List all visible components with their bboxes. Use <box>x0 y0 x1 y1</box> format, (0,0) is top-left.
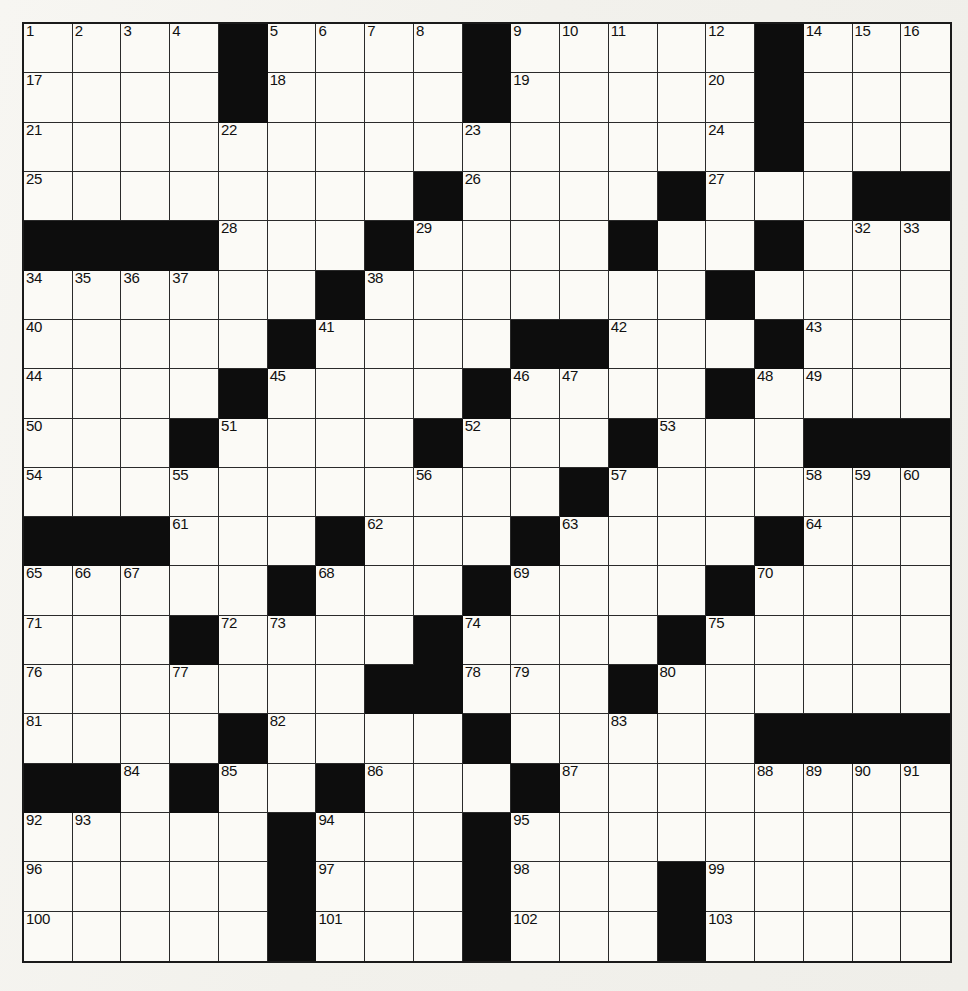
crossword-cell[interactable] <box>73 369 122 418</box>
crossword-cell[interactable]: 58 <box>804 468 853 517</box>
crossword-cell[interactable] <box>658 123 707 172</box>
crossword-cell[interactable] <box>511 419 560 468</box>
crossword-cell[interactable] <box>609 271 658 320</box>
crossword-cell[interactable] <box>365 813 414 862</box>
crossword-cell[interactable]: 46 <box>511 369 560 418</box>
crossword-cell[interactable] <box>365 123 414 172</box>
crossword-cell[interactable]: 54 <box>24 468 73 517</box>
crossword-cell[interactable]: 19 <box>511 73 560 122</box>
crossword-cell[interactable] <box>706 468 755 517</box>
crossword-cell[interactable]: 52 <box>463 419 512 468</box>
crossword-cell[interactable] <box>901 369 950 418</box>
crossword-cell[interactable]: 38 <box>365 271 414 320</box>
crossword-cell[interactable] <box>658 764 707 813</box>
crossword-cell[interactable] <box>414 566 463 615</box>
crossword-cell[interactable] <box>414 123 463 172</box>
crossword-cell[interactable] <box>414 517 463 566</box>
crossword-cell[interactable] <box>219 813 268 862</box>
crossword-cell[interactable] <box>73 320 122 369</box>
crossword-cell[interactable]: 90 <box>853 764 902 813</box>
crossword-cell[interactable] <box>755 419 804 468</box>
crossword-cell[interactable] <box>365 73 414 122</box>
crossword-cell[interactable]: 40 <box>24 320 73 369</box>
crossword-cell[interactable] <box>853 665 902 714</box>
crossword-cell[interactable] <box>804 221 853 270</box>
crossword-cell[interactable] <box>706 419 755 468</box>
crossword-cell[interactable] <box>170 320 219 369</box>
crossword-cell[interactable]: 93 <box>73 813 122 862</box>
crossword-cell[interactable] <box>804 616 853 665</box>
crossword-cell[interactable]: 82 <box>268 714 317 763</box>
crossword-cell[interactable] <box>219 566 268 615</box>
crossword-cell[interactable] <box>560 123 609 172</box>
crossword-cell[interactable] <box>365 862 414 911</box>
crossword-cell[interactable] <box>804 172 853 221</box>
crossword-cell[interactable] <box>755 912 804 961</box>
crossword-cell[interactable]: 34 <box>24 271 73 320</box>
crossword-cell[interactable] <box>804 271 853 320</box>
crossword-cell[interactable]: 63 <box>560 517 609 566</box>
crossword-cell[interactable] <box>219 172 268 221</box>
crossword-cell[interactable]: 44 <box>24 369 73 418</box>
crossword-cell[interactable]: 83 <box>609 714 658 763</box>
crossword-cell[interactable]: 102 <box>511 912 560 961</box>
crossword-cell[interactable] <box>658 714 707 763</box>
crossword-cell[interactable] <box>853 320 902 369</box>
crossword-cell[interactable] <box>121 468 170 517</box>
crossword-cell[interactable] <box>73 616 122 665</box>
crossword-cell[interactable] <box>121 369 170 418</box>
crossword-cell[interactable]: 23 <box>463 123 512 172</box>
crossword-cell[interactable] <box>560 862 609 911</box>
crossword-cell[interactable] <box>658 24 707 73</box>
crossword-cell[interactable] <box>414 912 463 961</box>
crossword-cell[interactable] <box>560 221 609 270</box>
crossword-cell[interactable] <box>853 271 902 320</box>
crossword-cell[interactable]: 65 <box>24 566 73 615</box>
crossword-cell[interactable] <box>511 123 560 172</box>
crossword-cell[interactable] <box>463 320 512 369</box>
crossword-cell[interactable] <box>901 73 950 122</box>
crossword-cell[interactable] <box>706 714 755 763</box>
crossword-cell[interactable]: 5 <box>268 24 317 73</box>
crossword-cell[interactable] <box>73 172 122 221</box>
crossword-cell[interactable] <box>73 73 122 122</box>
crossword-cell[interactable] <box>268 764 317 813</box>
crossword-cell[interactable] <box>170 123 219 172</box>
crossword-cell[interactable] <box>755 468 804 517</box>
crossword-cell[interactable] <box>609 172 658 221</box>
crossword-cell[interactable] <box>853 862 902 911</box>
crossword-cell[interactable] <box>901 517 950 566</box>
crossword-cell[interactable] <box>219 862 268 911</box>
crossword-cell[interactable] <box>804 123 853 172</box>
crossword-cell[interactable] <box>706 813 755 862</box>
crossword-cell[interactable]: 1 <box>24 24 73 73</box>
crossword-cell[interactable]: 77 <box>170 665 219 714</box>
crossword-cell[interactable] <box>901 912 950 961</box>
crossword-cell[interactable]: 45 <box>268 369 317 418</box>
crossword-cell[interactable]: 49 <box>804 369 853 418</box>
crossword-cell[interactable] <box>170 369 219 418</box>
crossword-cell[interactable] <box>706 665 755 714</box>
crossword-cell[interactable] <box>121 714 170 763</box>
crossword-cell[interactable] <box>365 616 414 665</box>
crossword-cell[interactable] <box>170 813 219 862</box>
crossword-cell[interactable]: 98 <box>511 862 560 911</box>
crossword-cell[interactable] <box>804 566 853 615</box>
crossword-cell[interactable] <box>316 419 365 468</box>
crossword-cell[interactable] <box>804 912 853 961</box>
crossword-cell[interactable] <box>658 271 707 320</box>
crossword-cell[interactable] <box>365 369 414 418</box>
crossword-cell[interactable]: 32 <box>853 221 902 270</box>
crossword-cell[interactable]: 12 <box>706 24 755 73</box>
crossword-cell[interactable] <box>609 912 658 961</box>
crossword-cell[interactable] <box>316 172 365 221</box>
crossword-cell[interactable]: 97 <box>316 862 365 911</box>
crossword-cell[interactable] <box>755 813 804 862</box>
crossword-cell[interactable]: 68 <box>316 566 365 615</box>
crossword-cell[interactable] <box>706 221 755 270</box>
crossword-cell[interactable] <box>658 73 707 122</box>
crossword-cell[interactable] <box>73 714 122 763</box>
crossword-cell[interactable]: 6 <box>316 24 365 73</box>
crossword-cell[interactable] <box>316 73 365 122</box>
crossword-cell[interactable] <box>170 862 219 911</box>
